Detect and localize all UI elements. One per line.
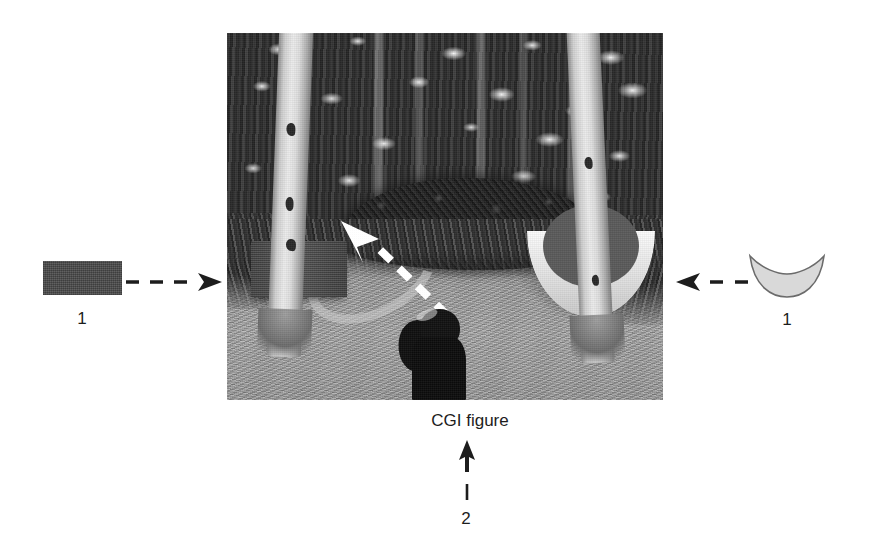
right-dashed-arrow-icon xyxy=(676,271,748,293)
figure-stage: 1 1 CGI figure 2 xyxy=(0,0,887,551)
forest-photograph xyxy=(227,33,663,400)
callout-label-right: 1 xyxy=(767,311,807,328)
callout-label-left: 1 xyxy=(62,310,102,327)
cgi-cube-swatch xyxy=(43,261,122,295)
silhouetted-person xyxy=(394,305,478,400)
figure-caption: CGI figure xyxy=(370,412,570,429)
cgi-bowl-swatch xyxy=(748,253,826,299)
up-leader-arrow-icon xyxy=(456,440,478,506)
callout-label-bottom: 2 xyxy=(446,510,486,527)
left-dashed-arrow-icon xyxy=(126,271,226,293)
